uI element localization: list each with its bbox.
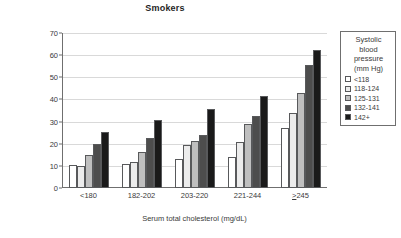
bar-groups bbox=[62, 33, 327, 188]
bar bbox=[313, 50, 321, 188]
y-axis-tick-mark bbox=[59, 188, 62, 189]
y-axis-tick-mark bbox=[59, 121, 62, 122]
y-axis-tick-label: 60 bbox=[50, 51, 58, 60]
y-axis-tick-mark bbox=[59, 55, 62, 56]
bar bbox=[154, 120, 162, 188]
legend: Systolicbloodpressure(mm Hg)<118118-1241… bbox=[340, 31, 396, 126]
bar-group bbox=[175, 33, 215, 188]
legend-entry[interactable]: 118-124 bbox=[345, 85, 392, 92]
y-axis-tick-label: 0 bbox=[54, 184, 58, 193]
y-axis-tick-label: 50 bbox=[50, 73, 58, 82]
x-axis-tick-label: 182-202 bbox=[120, 191, 164, 205]
bar bbox=[77, 166, 85, 188]
x-axis-title: Serum total cholesterol (mg/dL) bbox=[62, 214, 327, 223]
x-axis-tick-label: >245 bbox=[279, 191, 323, 205]
y-axis-tick-mark bbox=[59, 77, 62, 78]
x-axis-tick-label: <180 bbox=[67, 191, 111, 205]
legend-title-line: pressure bbox=[345, 54, 392, 64]
bar bbox=[281, 128, 289, 188]
x-axis-tick-label: 221-244 bbox=[226, 191, 270, 205]
chart-title: Smokers bbox=[0, 3, 330, 13]
legend-swatch-icon bbox=[345, 114, 351, 120]
bar bbox=[297, 93, 305, 188]
legend-entry[interactable]: 142+ bbox=[345, 114, 392, 121]
bar bbox=[244, 124, 252, 188]
bar bbox=[146, 138, 154, 188]
y-axis-tick-mark bbox=[59, 165, 62, 166]
legend-swatch-icon bbox=[345, 76, 351, 82]
bar-group bbox=[281, 33, 321, 188]
y-axis-tick-label: 30 bbox=[50, 117, 58, 126]
bar bbox=[183, 145, 191, 188]
bar-group bbox=[69, 33, 109, 188]
y-axis-tick-label: 10 bbox=[50, 161, 58, 170]
y-axis-tick-label: 20 bbox=[50, 139, 58, 148]
bar bbox=[122, 164, 130, 188]
bar bbox=[199, 135, 207, 188]
legend-label: <118 bbox=[354, 76, 369, 83]
bar bbox=[85, 155, 93, 188]
legend-label: 118-124 bbox=[354, 85, 379, 92]
bar bbox=[236, 142, 244, 188]
bar bbox=[130, 162, 138, 188]
y-axis-tick-mark bbox=[59, 99, 62, 100]
legend-swatch-icon bbox=[345, 95, 351, 101]
bar-group bbox=[122, 33, 162, 188]
y-axis-tick-label: 40 bbox=[50, 95, 58, 104]
bar bbox=[252, 116, 260, 188]
legend-title-line: blood bbox=[345, 45, 392, 55]
bar bbox=[69, 165, 77, 188]
bar bbox=[138, 152, 146, 188]
bar bbox=[93, 144, 101, 188]
bar bbox=[305, 65, 313, 188]
legend-title-line: Systolic bbox=[345, 35, 392, 45]
bar bbox=[175, 159, 183, 188]
bar bbox=[289, 113, 297, 188]
y-axis-tick-mark bbox=[59, 143, 62, 144]
x-axis-tick-labels: <180182-202203-220221-244>245 bbox=[62, 191, 327, 205]
legend-entry[interactable]: 132-141 bbox=[345, 104, 392, 111]
plot-area: 010203040506070 bbox=[62, 33, 327, 188]
legend-label: 142+ bbox=[354, 114, 370, 121]
x-axis-tick-label: 203-220 bbox=[173, 191, 217, 205]
legend-label: 125-131 bbox=[354, 95, 380, 102]
legend-entry[interactable]: 125-131 bbox=[345, 95, 392, 102]
legend-swatch-icon bbox=[345, 105, 351, 111]
bar-group bbox=[228, 33, 268, 188]
y-axis-tick-mark bbox=[59, 33, 62, 34]
bar bbox=[101, 132, 109, 188]
bar bbox=[191, 141, 199, 188]
legend-label: 132-141 bbox=[354, 104, 380, 111]
y-axis-tick-label: 70 bbox=[50, 29, 58, 38]
bar bbox=[260, 96, 268, 188]
bar bbox=[228, 157, 236, 188]
bar bbox=[207, 109, 215, 188]
legend-swatch-icon bbox=[345, 86, 351, 92]
legend-title-line: (mm Hg) bbox=[345, 64, 392, 74]
legend-entry[interactable]: <118 bbox=[345, 76, 392, 83]
